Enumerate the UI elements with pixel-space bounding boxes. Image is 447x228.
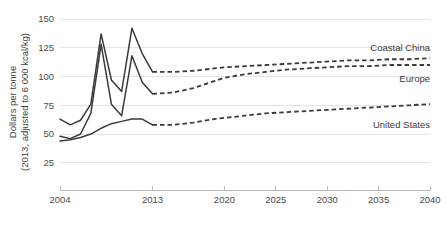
y-axis-tick-labels: 255075100125150: [38, 13, 54, 168]
y-axis-title-line1: Dollars per tonne: [7, 66, 18, 138]
series-line-projection-2: [153, 65, 431, 94]
x-axis: [60, 186, 430, 190]
x-tick-label: 2004: [49, 194, 70, 205]
series-labels: Coastal ChinaEuropeUnited States: [370, 42, 430, 130]
y-tick-label: 100: [38, 71, 54, 82]
x-tick-label: 2013: [142, 194, 163, 205]
series-label-europe: Europe: [399, 73, 430, 84]
x-axis-tick-labels: 2004201320202025203020352040: [49, 194, 440, 205]
x-tick-label: 2030: [317, 194, 338, 205]
y-tick-label: 25: [43, 157, 54, 168]
y-tick-label: 150: [38, 13, 54, 24]
series-line-projection-1: [153, 58, 431, 72]
series-label-united-states: United States: [373, 119, 430, 130]
x-tick-label: 2020: [214, 194, 235, 205]
chart-container: 255075100125150 200420132020202520302035…: [0, 0, 447, 228]
y-tick-label: 125: [38, 42, 54, 53]
gridlines: [60, 19, 430, 163]
x-tick-label: 2025: [265, 194, 286, 205]
y-axis-title: Dollars per tonne (2013, adjusted to 6 0…: [7, 33, 30, 171]
chart-canvas: 255075100125150 200420132020202520302035…: [0, 0, 447, 228]
y-axis-title-line2: (2013, adjusted to 6 000 kcal/kg): [19, 33, 30, 171]
y-tick-label: 50: [43, 128, 54, 139]
y-tick-label: 75: [43, 100, 54, 111]
x-tick-label: 2040: [419, 194, 440, 205]
series-label-coastal-china: Coastal China: [370, 42, 430, 53]
x-tick-label: 2035: [368, 194, 389, 205]
